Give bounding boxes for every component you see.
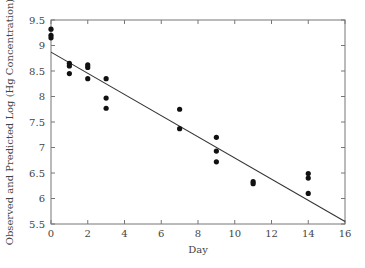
y-tick-label: 5.5 bbox=[29, 219, 45, 230]
y-tick-label: 9.5 bbox=[29, 15, 45, 26]
y-tick-label: 9 bbox=[39, 40, 45, 51]
data-point bbox=[306, 176, 311, 181]
data-point bbox=[48, 27, 53, 32]
y-tick-label: 6.5 bbox=[29, 168, 45, 179]
x-tick-label: 0 bbox=[48, 228, 54, 239]
y-ticks: 5.566.577.588.599.5 bbox=[29, 15, 345, 230]
x-tick-label: 10 bbox=[228, 228, 241, 239]
data-point bbox=[104, 106, 109, 111]
y-tick-label: 6 bbox=[39, 193, 45, 204]
data-point bbox=[67, 63, 72, 68]
x-tick-label: 6 bbox=[158, 228, 164, 239]
data-point bbox=[67, 71, 72, 76]
axes bbox=[51, 20, 345, 224]
data-point bbox=[306, 191, 311, 196]
fit-line-group bbox=[51, 52, 345, 221]
fit-line bbox=[51, 52, 345, 221]
x-tick-label: 12 bbox=[265, 228, 278, 239]
data-point bbox=[85, 65, 90, 70]
y-tick-label: 8.5 bbox=[29, 66, 45, 77]
x-tick-label: 4 bbox=[121, 228, 127, 239]
y-axis-title: Observed and Predicted Log (Hg Concentra… bbox=[4, 0, 15, 245]
data-point bbox=[214, 148, 219, 153]
data-point bbox=[251, 181, 256, 186]
data-point bbox=[104, 95, 109, 100]
x-tick-label: 2 bbox=[85, 228, 91, 239]
data-point bbox=[306, 171, 311, 176]
data-point bbox=[104, 76, 109, 81]
data-point bbox=[48, 35, 53, 40]
data-points bbox=[48, 27, 310, 196]
y-tick-label: 7 bbox=[39, 142, 45, 153]
data-point bbox=[85, 76, 90, 81]
plot-frame bbox=[51, 20, 345, 224]
x-tick-label: 14 bbox=[302, 228, 315, 239]
y-tick-label: 7.5 bbox=[29, 117, 45, 128]
data-point bbox=[214, 135, 219, 140]
data-point bbox=[177, 107, 182, 112]
chart: 0246810121416 5.566.577.588.599.5 Day Ob… bbox=[0, 0, 365, 268]
x-tick-label: 16 bbox=[339, 228, 352, 239]
x-tick-label: 8 bbox=[195, 228, 201, 239]
data-point bbox=[177, 126, 182, 131]
data-point bbox=[214, 159, 219, 164]
y-tick-label: 8 bbox=[39, 91, 45, 102]
x-axis-title: Day bbox=[188, 244, 208, 255]
x-ticks: 0246810121416 bbox=[48, 20, 352, 239]
